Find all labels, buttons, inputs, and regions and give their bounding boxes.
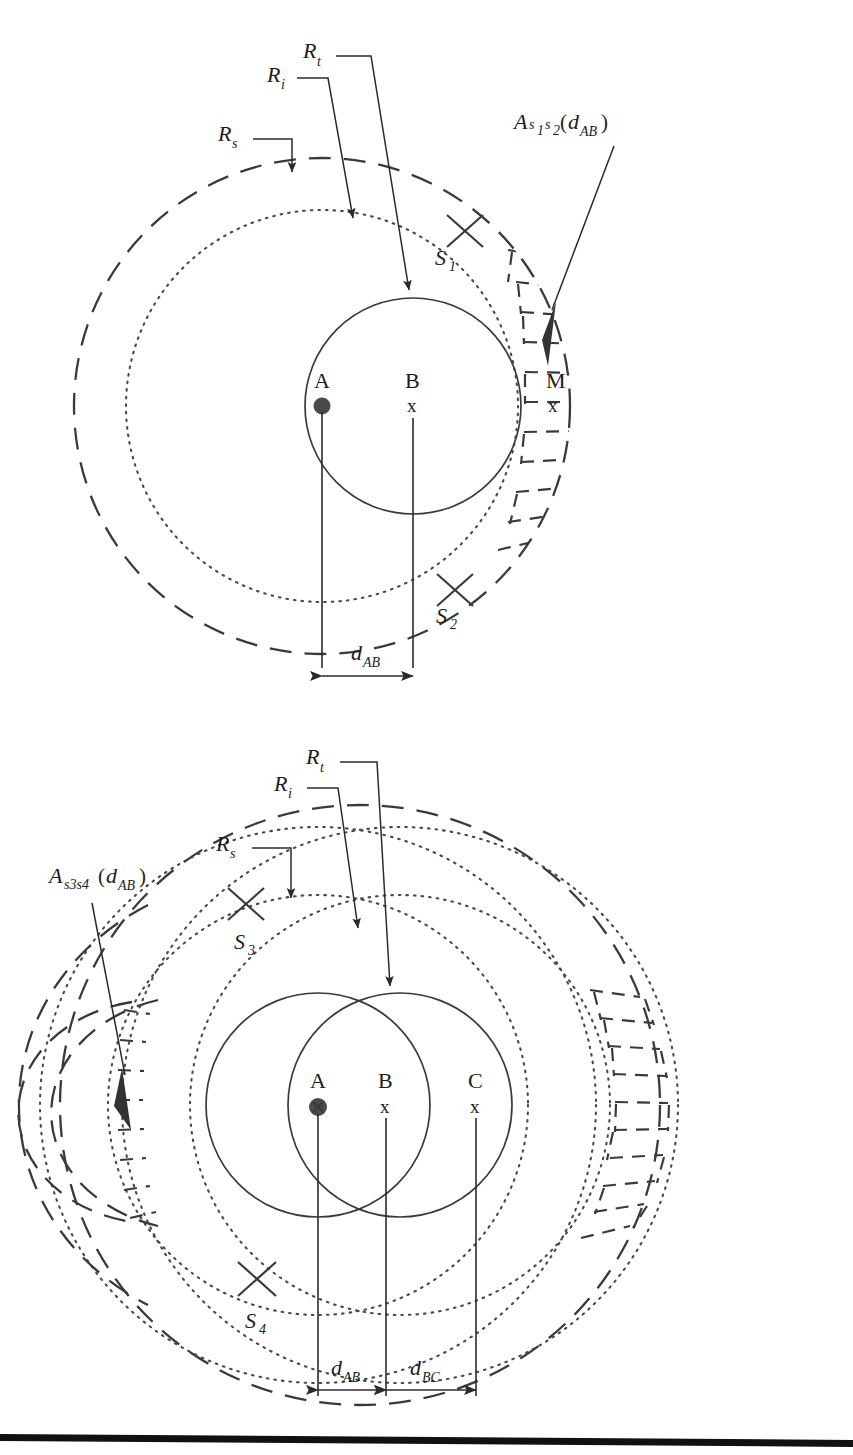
top-s2-sub: 2 bbox=[450, 617, 457, 632]
page-background bbox=[0, 0, 853, 1455]
bottom-s4-label: S bbox=[245, 1308, 256, 1333]
bottom-s3-label: S bbox=[234, 929, 245, 954]
figure-canvas: R s R i R t A s 1 s 2 ( d AB ) bbox=[0, 0, 853, 1455]
top-node-b-label: B bbox=[405, 368, 420, 393]
top-node-m-marker: x bbox=[548, 395, 558, 416]
diagram-svg: R s R i R t A s 1 s 2 ( d AB ) bbox=[0, 0, 853, 1455]
bottom-node-c-marker: x bbox=[470, 1096, 480, 1117]
top-dab-base: d bbox=[351, 640, 363, 665]
bottom-ri-label: R bbox=[273, 771, 288, 796]
top-rs-label: R bbox=[217, 121, 232, 146]
bottom-s3-sub: 3 bbox=[247, 943, 255, 958]
bottom-node-c-label: C bbox=[468, 1068, 483, 1093]
top-area-sub1: s bbox=[529, 117, 535, 132]
bottom-dab-sub: AB bbox=[342, 1370, 361, 1385]
bottom-area-paren-open: ( bbox=[98, 864, 105, 888]
bottom-s4-sub: 4 bbox=[259, 1322, 266, 1337]
top-node-b-marker: x bbox=[407, 395, 417, 416]
bottom-area-arg-base: d bbox=[106, 863, 118, 888]
top-area-paren-open: ( bbox=[560, 110, 567, 134]
top-dab-sub: AB bbox=[362, 655, 381, 670]
top-rt-label: R bbox=[302, 38, 317, 63]
bottom-rt-label: R bbox=[305, 744, 320, 769]
bottom-dbc-sub: BC bbox=[422, 1370, 441, 1385]
bottom-node-b-label: B bbox=[378, 1068, 393, 1093]
bottom-node-a-label: A bbox=[310, 1068, 326, 1093]
bottom-node-b-marker: x bbox=[380, 1096, 390, 1117]
top-s1-label: S bbox=[435, 245, 446, 270]
top-node-a-label: A bbox=[314, 368, 330, 393]
bottom-rs-label: R bbox=[215, 831, 230, 856]
bottom-ri-sub: i bbox=[288, 786, 292, 801]
top-area-prefix: A bbox=[512, 109, 528, 134]
bottom-dab-base: d bbox=[331, 1355, 343, 1380]
top-s1-sub: 1 bbox=[449, 259, 456, 274]
top-node-a-marker bbox=[314, 398, 331, 415]
bottom-dbc-base: d bbox=[410, 1355, 422, 1380]
top-area-num1: 1 bbox=[537, 123, 544, 138]
bottom-area-sub: s3s4 bbox=[64, 877, 89, 892]
top-rs-sub: s bbox=[232, 136, 238, 151]
top-ri-sub: i bbox=[281, 77, 285, 92]
bottom-area-prefix: A bbox=[47, 863, 63, 888]
top-area-arg-base: d bbox=[568, 109, 580, 134]
top-node-m-label: M bbox=[546, 368, 566, 393]
bottom-rs-sub: s bbox=[230, 846, 236, 861]
bottom-area-arg-sub: AB bbox=[117, 878, 136, 893]
top-area-arg-sub: AB bbox=[579, 124, 598, 139]
top-area-num2: 2 bbox=[553, 123, 560, 138]
top-area-paren-close: ) bbox=[601, 110, 608, 134]
top-area-sub2: s bbox=[545, 117, 551, 132]
top-s2-label: S bbox=[436, 603, 447, 628]
top-ri-label: R bbox=[266, 62, 281, 87]
bottom-area-paren-close: ) bbox=[139, 864, 146, 888]
